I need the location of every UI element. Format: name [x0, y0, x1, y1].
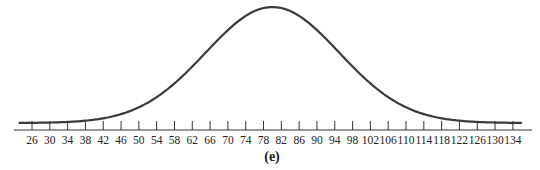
- x-tick-label: 54: [151, 134, 163, 146]
- x-tick-label: 134: [504, 134, 522, 146]
- x-tick-label: 118: [433, 134, 450, 146]
- normal-distribution-chart: 2630343842465054586266707478828690949810…: [0, 0, 540, 170]
- x-tick-label: 78: [258, 134, 270, 146]
- x-tick-label: 58: [169, 134, 181, 146]
- x-tick-label: 94: [329, 134, 341, 146]
- x-tick-label: 66: [204, 134, 216, 146]
- figure-caption: (e): [264, 149, 280, 165]
- x-tick-label: 46: [115, 134, 127, 146]
- x-tick-label: 98: [347, 134, 359, 146]
- x-tick-label: 102: [362, 134, 380, 146]
- x-tick-label: 62: [187, 134, 199, 146]
- x-tick-label: 34: [62, 134, 74, 146]
- x-tick-label: 82: [276, 134, 288, 146]
- x-tick-label: 110: [398, 134, 415, 146]
- x-tick-label: 26: [26, 134, 38, 146]
- x-tick-label: 70: [222, 134, 234, 146]
- x-tick-label: 74: [240, 134, 252, 146]
- x-tick-label: 30: [44, 134, 56, 146]
- x-tick-label: 122: [451, 134, 469, 146]
- x-tick-label: 130: [486, 134, 504, 146]
- x-axis-ticks: 2630343842465054586266707478828690949810…: [26, 121, 521, 146]
- x-tick-label: 106: [380, 134, 398, 146]
- x-tick-label: 50: [133, 134, 145, 146]
- x-tick-label: 90: [311, 134, 323, 146]
- x-tick-label: 38: [80, 134, 92, 146]
- x-tick-label: 86: [293, 134, 305, 146]
- x-tick-label: 42: [97, 134, 109, 146]
- x-tick-label: 114: [415, 134, 432, 146]
- x-tick-label: 126: [469, 134, 487, 146]
- distribution-curve: [19, 7, 522, 123]
